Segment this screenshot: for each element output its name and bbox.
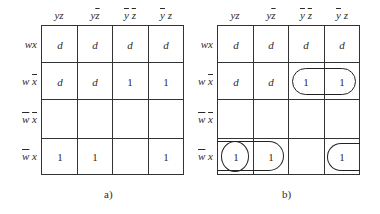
kmap-grid: d d d d d d 1 1 1 1 1 bbox=[41, 25, 184, 175]
cell: d bbox=[218, 26, 254, 63]
cell: d bbox=[253, 63, 289, 100]
group-loop-wraparound-left bbox=[217, 141, 284, 171]
cell bbox=[112, 100, 148, 138]
row-header-wx: wx bbox=[0, 38, 37, 50]
caption-a: a) bbox=[104, 188, 113, 200]
cell bbox=[288, 138, 324, 175]
col-header-y-zbar: yz bbox=[77, 9, 113, 21]
col-header-yz: yz bbox=[217, 9, 253, 21]
col-header-y-zbar: yz bbox=[253, 9, 289, 21]
karnaugh-map-b: yz yz y z y z wx w x w x w x d d d d d d… bbox=[176, 0, 366, 214]
cell bbox=[218, 100, 254, 138]
cell: d bbox=[324, 26, 360, 63]
cell: d bbox=[253, 26, 289, 63]
karnaugh-map-a: yz yz y z y z wx w x w x w x d d d d d d… bbox=[0, 0, 190, 214]
cell bbox=[42, 100, 78, 138]
row-header-wbar-x: w x bbox=[0, 150, 37, 162]
cell: 1 bbox=[42, 138, 78, 175]
cell bbox=[288, 100, 324, 138]
cell: d bbox=[77, 63, 113, 100]
cell: d bbox=[77, 26, 113, 63]
cell bbox=[324, 100, 360, 138]
cell: d bbox=[218, 63, 254, 100]
kmap-grid: d d d d d d 1 1 1 1 1 bbox=[217, 25, 360, 175]
cell bbox=[77, 100, 113, 138]
group-loop-wxbar-ybar bbox=[292, 68, 356, 95]
cell: d bbox=[42, 63, 78, 100]
col-header-ybar-zbar: y z bbox=[112, 9, 148, 21]
cell: d bbox=[42, 26, 78, 63]
cell bbox=[253, 100, 289, 138]
col-header-yz: yz bbox=[41, 9, 77, 21]
caption-b: b) bbox=[282, 188, 291, 200]
cell: 1 bbox=[112, 63, 148, 100]
cell bbox=[112, 138, 148, 175]
col-header-ybar-zbar: y z bbox=[288, 9, 324, 21]
row-header-wx: wx bbox=[176, 38, 213, 50]
cell: d bbox=[288, 26, 324, 63]
row-header-wbar-xbar: w x bbox=[0, 113, 37, 125]
row-header-wbar-x: w x bbox=[176, 150, 213, 162]
row-header-w-xbar: w x bbox=[176, 75, 213, 87]
col-header-ybar-z: y z bbox=[324, 9, 360, 21]
group-loop-wraparound-right bbox=[327, 143, 360, 171]
row-header-wbar-xbar: w x bbox=[176, 113, 213, 125]
cell: d bbox=[112, 26, 148, 63]
cell: 1 bbox=[77, 138, 113, 175]
row-header-w-xbar: w x bbox=[0, 75, 37, 87]
